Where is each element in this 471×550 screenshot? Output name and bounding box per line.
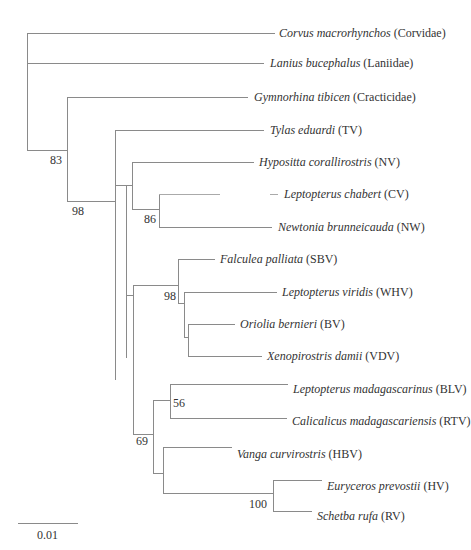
taxon-group-code: (NW) xyxy=(397,220,425,234)
support-value-node-98a: 98 xyxy=(72,205,84,217)
taxon-species-name: Gymnorhina tibicen xyxy=(254,90,350,104)
taxon-label-lanius: Lanius bucephalus (Laniidae) xyxy=(270,57,413,69)
taxon-species-name: Tylas eduardi xyxy=(270,123,335,137)
taxon-label-oriolia: Oriolia bernieri (BV) xyxy=(240,318,345,330)
support-value-node-69: 69 xyxy=(136,435,148,447)
taxon-label-schetba: Schetba rufa (RV) xyxy=(317,510,405,522)
taxon-species-name: Euryceros prevostii xyxy=(327,479,420,493)
taxon-label-leptopterus-chabert: Leptopterus chabert (CV) xyxy=(284,188,409,200)
taxon-species-name: Lanius bucephalus xyxy=(270,56,360,70)
taxon-label-leptopterus-viridis: Leptopterus viridis (WHV) xyxy=(282,286,413,298)
taxon-group-code: (Laniidae) xyxy=(363,56,413,70)
taxon-species-name: Leptopterus chabert xyxy=(284,187,381,201)
taxon-species-name: Corvus macrorhynchos xyxy=(279,26,391,40)
taxon-label-gymnorhina: Gymnorhina tibicen (Cracticidae) xyxy=(254,91,416,103)
taxon-group-code: (NV) xyxy=(375,155,400,169)
taxon-species-name: Newtonia brunneicauda xyxy=(278,220,394,234)
taxon-group-code: (HV) xyxy=(423,479,448,493)
taxon-group-code: (SBV) xyxy=(306,252,337,266)
taxon-label-falculea: Falculea palliata (SBV) xyxy=(220,253,337,265)
support-value-node-86: 86 xyxy=(144,213,156,225)
taxon-group-code: (BV) xyxy=(320,317,345,331)
support-value-node-100: 100 xyxy=(249,498,267,510)
taxon-species-name: Leptopterus madagascarinus xyxy=(293,382,433,396)
taxon-group-code: (RTV) xyxy=(439,414,470,428)
taxon-group-code: (TV) xyxy=(338,123,362,137)
taxon-group-code: (WHV) xyxy=(376,285,413,299)
taxon-group-code: (HBV) xyxy=(329,447,362,461)
taxon-label-calicalicus: Calicalicus madagascariensis (RTV) xyxy=(292,415,471,427)
taxon-label-corvus: Corvus macrorhynchos (Corvidae) xyxy=(279,27,446,39)
taxon-group-code: (BLV) xyxy=(436,382,467,396)
taxon-species-name: Falculea palliata xyxy=(220,252,303,266)
taxon-species-name: Leptopterus viridis xyxy=(282,285,373,299)
taxon-label-leptopterus-madagascarinus: Leptopterus madagascarinus (BLV) xyxy=(293,383,467,395)
taxon-species-name: Hypositta corallirostris xyxy=(259,155,372,169)
taxon-label-vanga: Vanga curvirostris (HBV) xyxy=(237,448,362,460)
taxon-species-name: Schetba rufa xyxy=(317,509,378,523)
taxon-group-code: (VDV) xyxy=(365,349,399,363)
taxon-label-tylas: Tylas eduardi (TV) xyxy=(270,124,362,136)
support-value-node-83: 83 xyxy=(50,154,62,166)
support-value-node-98b: 98 xyxy=(164,290,176,302)
taxon-label-euryceros: Euryceros prevostii (HV) xyxy=(327,480,449,492)
taxon-group-code: (CV) xyxy=(384,187,409,201)
taxon-species-name: Xenopirostris damii xyxy=(267,349,362,363)
taxon-species-name: Oriolia bernieri xyxy=(240,317,317,331)
taxon-group-code: (RV) xyxy=(381,509,405,523)
taxon-label-xenopirostris: Xenopirostris damii (VDV) xyxy=(267,350,399,362)
support-value-node-56: 56 xyxy=(173,397,185,409)
taxon-label-hypositta: Hypositta corallirostris (NV) xyxy=(259,156,400,168)
scale-bar-label: 0.01 xyxy=(37,528,58,543)
taxon-label-newtonia: Newtonia brunneicauda (NW) xyxy=(278,221,425,233)
taxon-species-name: Calicalicus madagascariensis xyxy=(292,414,436,428)
taxon-species-name: Vanga curvirostris xyxy=(237,447,326,461)
taxon-group-code: (Cracticidae) xyxy=(353,90,416,104)
taxon-group-code: (Corvidae) xyxy=(394,26,446,40)
